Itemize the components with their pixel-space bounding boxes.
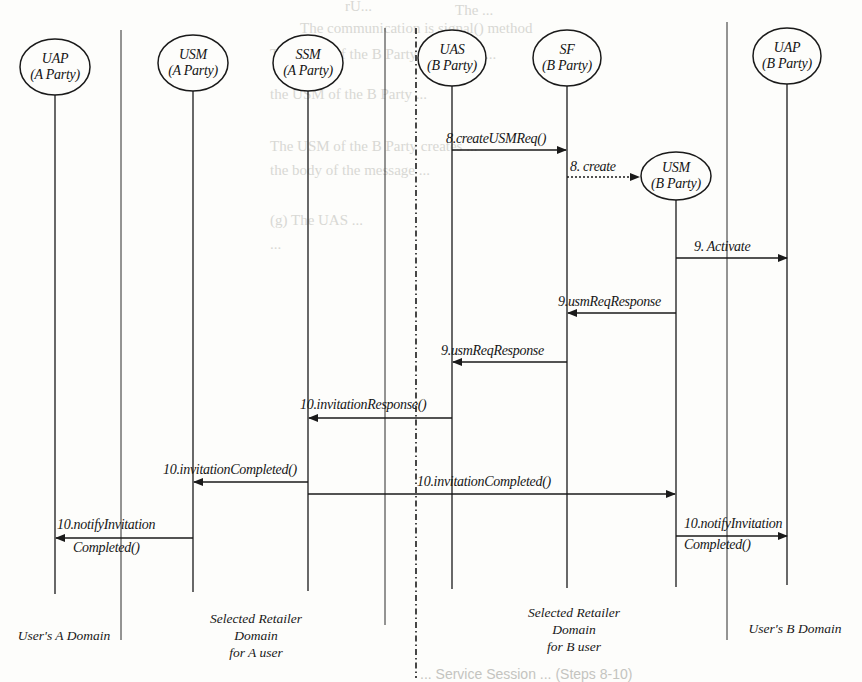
actor-name: SSM bbox=[273, 47, 343, 63]
message-label-create: 8. create bbox=[570, 159, 616, 175]
actor-party: (B Party) bbox=[641, 176, 711, 192]
domain-line: User's B Domain bbox=[728, 620, 862, 637]
actor-ssm-a: SSM (A Party) bbox=[273, 47, 343, 79]
actor-uap-b: UAP (B Party) bbox=[753, 40, 821, 72]
actor-party: (B Party) bbox=[418, 58, 486, 74]
domain-line: Domain bbox=[196, 627, 316, 644]
figure-caption: ... Service Session ... (Steps 8-10) bbox=[420, 666, 632, 682]
actor-name: USM bbox=[158, 47, 228, 63]
actor-name: UAP bbox=[753, 40, 821, 56]
domain-line: for A user bbox=[196, 644, 316, 661]
domain-label-retailer-a: Selected Retailer Domain for A user bbox=[196, 610, 316, 661]
actor-party: (A Party) bbox=[273, 63, 343, 79]
actor-party: (B Party) bbox=[753, 56, 821, 72]
actor-usm-a: USM (A Party) bbox=[158, 47, 228, 79]
message-label-usm-req-response-1: 9.usmReqResponse bbox=[558, 294, 661, 310]
message-label-invitation-completed-b: 10.invitationCompleted() bbox=[417, 474, 551, 490]
actor-usm-b: USM (B Party) bbox=[641, 160, 711, 192]
message-label-invitation-response: 10.invitationResponse() bbox=[300, 397, 426, 413]
actor-name: USM bbox=[641, 160, 711, 176]
domain-line: Domain bbox=[514, 621, 634, 638]
actor-sf-b: SF (B Party) bbox=[533, 42, 601, 74]
actor-party: (B Party) bbox=[533, 58, 601, 74]
message-label-notify-invitation-b-line2: Completed() bbox=[684, 537, 751, 553]
domain-label-retailer-b: Selected Retailer Domain for B user bbox=[514, 604, 634, 655]
domain-label-user-b: User's B Domain bbox=[728, 620, 862, 637]
message-label-invitation-completed-a: 10.invitationCompleted() bbox=[163, 462, 297, 478]
actor-name: UAS bbox=[418, 42, 486, 58]
domain-line: User's A Domain bbox=[4, 627, 124, 644]
message-label-notify-invitation-a-line1: 10.notifyInvitation bbox=[57, 517, 155, 533]
domain-separators bbox=[121, 22, 727, 640]
actor-party: (A Party) bbox=[158, 63, 228, 79]
domain-line: Selected Retailer bbox=[196, 610, 316, 627]
actor-name: UAP bbox=[20, 51, 90, 67]
message-label-create-usm-req: 8.createUSMReq() bbox=[446, 131, 546, 147]
actor-uap-a: UAP (A Party) bbox=[20, 51, 90, 83]
message-label-activate: 9. Activate bbox=[694, 239, 750, 255]
message-label-notify-invitation-a-line2: Completed() bbox=[73, 540, 140, 556]
domain-line: Selected Retailer bbox=[514, 604, 634, 621]
message-label-notify-invitation-b-line1: 10.notifyInvitation bbox=[684, 516, 782, 532]
message-label-usm-req-response-2: 9.usmReqResponse bbox=[441, 343, 544, 359]
actor-party: (A Party) bbox=[20, 67, 90, 83]
actor-name: SF bbox=[533, 42, 601, 58]
domain-line: for B user bbox=[514, 638, 634, 655]
domain-label-user-a: User's A Domain bbox=[4, 627, 124, 644]
actor-uas-b: UAS (B Party) bbox=[418, 42, 486, 74]
